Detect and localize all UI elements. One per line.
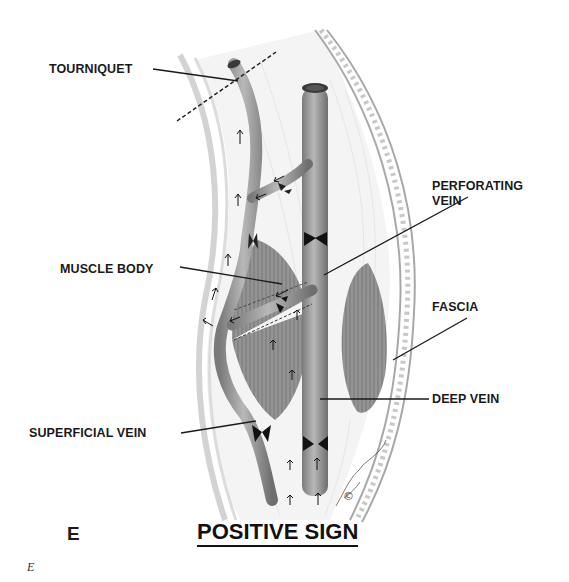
label-deep-vein: DEEP VEIN: [432, 392, 499, 406]
figure-title: POSITIVE SIGN: [197, 520, 358, 547]
label-perforating-vein-line2: VEIN: [432, 194, 462, 208]
label-superficial-vein: SUPERFICIAL VEIN: [29, 426, 146, 440]
copyright-mark: ©: [343, 490, 354, 503]
panel-letter: E: [67, 523, 80, 545]
figure-caption: E: [27, 560, 34, 575]
label-perforating-vein-line1: PERFORATING: [432, 179, 523, 193]
anatomy-illustration: [0, 0, 569, 582]
diagram-canvas: [0, 0, 569, 582]
label-fascia: FASCIA: [432, 300, 478, 314]
label-tourniquet: TOURNIQUET: [49, 62, 132, 76]
label-muscle-body: MUSCLE BODY: [60, 262, 153, 276]
